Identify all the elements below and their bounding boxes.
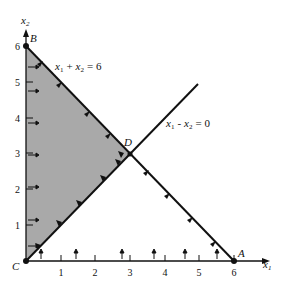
point-b-label: B bbox=[30, 32, 37, 44]
x-tick-5: 5 bbox=[197, 267, 202, 278]
lp-diagram: 1 2 3 4 5 6 1 2 3 4 5 6 x1 x2 bbox=[0, 0, 283, 288]
y-tick-6: 6 bbox=[15, 41, 20, 52]
y-tick-4: 4 bbox=[15, 113, 20, 124]
point-c-marker bbox=[23, 258, 29, 264]
y-tick-2: 2 bbox=[15, 184, 20, 195]
constraint-sum-label: x1+x2= 6 bbox=[54, 60, 102, 74]
y-tick-1: 1 bbox=[15, 220, 20, 231]
constraint-diff-label: x1-x2= 0 bbox=[165, 117, 210, 131]
x-tick-3: 3 bbox=[128, 267, 133, 278]
y-tick-labels: 1 2 3 4 5 6 bbox=[15, 41, 20, 231]
point-c-label: C bbox=[12, 260, 20, 272]
y-axis-label: x2 bbox=[20, 14, 30, 28]
point-d-label: D bbox=[123, 136, 132, 148]
y-tick-5: 5 bbox=[15, 77, 20, 88]
x-axis-label: x1 bbox=[262, 258, 271, 272]
x-axis-direction-arrows bbox=[39, 249, 219, 259]
x-tick-2: 2 bbox=[93, 267, 98, 278]
y-axis-arrow-icon bbox=[23, 29, 29, 37]
x-tick-labels: 1 2 3 4 5 6 bbox=[59, 267, 237, 278]
point-a-marker bbox=[231, 258, 237, 264]
x-tick-6: 6 bbox=[232, 267, 237, 278]
point-d-marker bbox=[128, 152, 133, 157]
x-ticks bbox=[61, 255, 234, 261]
x-tick-4: 4 bbox=[163, 267, 168, 278]
feasible-region bbox=[26, 46, 130, 261]
y-tick-3: 3 bbox=[15, 148, 20, 159]
point-b-marker bbox=[23, 43, 29, 49]
x-tick-1: 1 bbox=[59, 267, 64, 278]
point-a-label: A bbox=[237, 247, 245, 259]
